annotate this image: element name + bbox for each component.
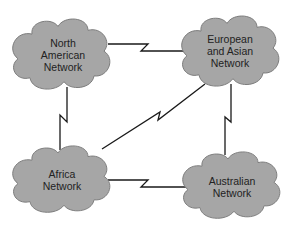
link-africa-eu — [102, 84, 205, 149]
label-line: European — [185, 33, 275, 45]
label-line: Network — [18, 61, 108, 73]
label-north-american: North American Network — [18, 37, 108, 73]
label-australian: Australian Network — [187, 175, 277, 199]
label-european-asian: European and Asian Network — [185, 33, 275, 69]
label-line: American — [18, 49, 108, 61]
label-line: Network — [185, 57, 275, 69]
label-line: and Asian — [185, 45, 275, 57]
label-line: Africa — [17, 168, 107, 180]
label-line: Australian — [187, 175, 277, 187]
link-na-africa — [60, 87, 67, 150]
label-africa: Africa Network — [17, 168, 107, 192]
link-eu-australia — [225, 84, 231, 155]
label-line: Network — [187, 187, 277, 199]
label-line: Network — [17, 180, 107, 192]
label-line: North — [18, 37, 108, 49]
